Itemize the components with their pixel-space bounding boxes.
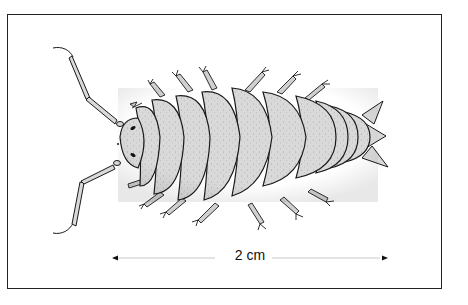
scale-bar-label: 2 cm xyxy=(220,247,280,263)
body xyxy=(118,88,378,202)
antenna-upper xyxy=(53,47,124,126)
head-spine xyxy=(117,143,119,145)
antenna-lower xyxy=(53,161,121,234)
